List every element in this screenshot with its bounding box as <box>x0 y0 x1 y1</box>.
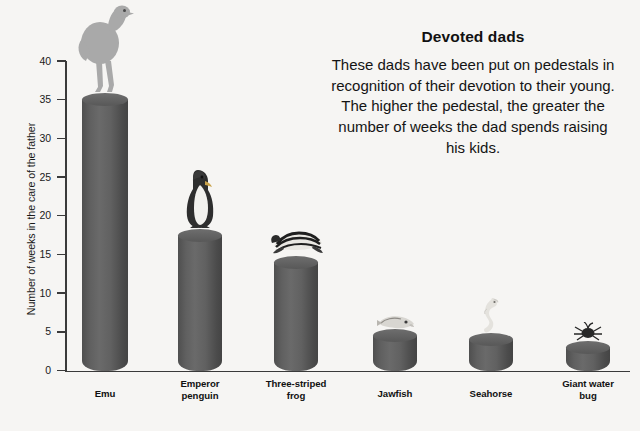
bar-giant-water-bug[interactable] <box>566 347 610 370</box>
pedestal-cylinder <box>82 100 128 371</box>
x-category-label: Giant waterbug <box>543 378 633 401</box>
y-tick-35 <box>57 99 66 100</box>
y-tick-label-30: 30 <box>25 132 51 144</box>
y-tick-15 <box>57 254 66 255</box>
emperor-penguin-icon <box>183 168 217 234</box>
x-category-label: Seahorse <box>446 388 536 400</box>
chart-plot-area: Number of weeks in the care of the fathe… <box>0 0 640 431</box>
pedestal-cylinder <box>373 336 417 371</box>
y-tick-25 <box>57 176 66 177</box>
x-label-line1: Jawfish <box>378 388 413 399</box>
y-tick-5 <box>57 331 66 332</box>
bar-jawfish[interactable] <box>373 336 417 371</box>
x-category-label: Emu <box>60 388 150 400</box>
infographic-chart: Devoted dads These dads have been put on… <box>0 0 640 431</box>
x-label-line2: frog <box>287 390 305 401</box>
y-tick-label-10: 10 <box>25 287 51 299</box>
bar-emu[interactable] <box>82 100 128 371</box>
pedestal-cylinder <box>274 262 318 370</box>
jawfish-icon <box>375 313 415 335</box>
bar-seahorse[interactable] <box>469 340 513 371</box>
giant-water-bug-icon <box>573 322 603 346</box>
y-tick-0 <box>57 370 66 371</box>
bar-emperor-penguin[interactable] <box>178 235 222 370</box>
pedestal-cylinder <box>469 340 513 371</box>
emu-icon <box>76 3 134 99</box>
y-tick-label-20: 20 <box>25 209 51 221</box>
y-tick-20 <box>57 215 66 216</box>
x-label-line1: Emperor <box>180 378 219 389</box>
x-category-label: Jawfish <box>350 388 440 400</box>
x-label-line2: penguin <box>182 390 219 401</box>
three-striped-frog-icon <box>268 227 324 261</box>
y-tick-40 <box>57 60 66 61</box>
y-tick-label-35: 35 <box>25 93 51 105</box>
x-category-label: Emperorpenguin <box>155 378 245 401</box>
x-label-line1: Three-striped <box>266 378 327 389</box>
pedestal-cylinder <box>566 347 610 370</box>
y-tick-label-0: 0 <box>25 364 51 376</box>
pedestal-cylinder <box>178 235 222 370</box>
x-label-line1: Seahorse <box>470 388 513 399</box>
y-tick-30 <box>57 138 66 139</box>
x-label-line1: Giant water <box>562 378 614 389</box>
x-label-line2: bug <box>579 390 596 401</box>
y-axis-line <box>65 61 67 372</box>
y-tick-label-25: 25 <box>25 171 51 183</box>
x-category-label: Three-stripedfrog <box>251 378 341 401</box>
y-tick-10 <box>57 292 66 293</box>
bar-three-striped-frog[interactable] <box>274 262 318 370</box>
y-tick-label-40: 40 <box>25 55 51 67</box>
seahorse-icon <box>481 295 501 339</box>
x-label-line1: Emu <box>95 388 116 399</box>
y-tick-label-5: 5 <box>25 325 51 337</box>
y-tick-label-15: 15 <box>25 248 51 260</box>
x-axis-line <box>65 371 630 373</box>
